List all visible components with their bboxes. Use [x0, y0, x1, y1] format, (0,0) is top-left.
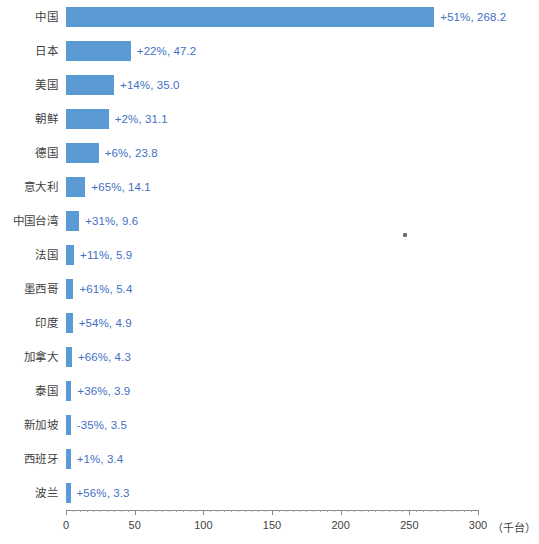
- x-axis-minor-tick: [183, 510, 184, 512]
- x-axis-minor-tick: [176, 510, 177, 512]
- bar-with-label: +31%, 9.6: [66, 211, 138, 231]
- x-axis-minor-tick: [217, 510, 218, 512]
- x-axis-minor-tick: [224, 510, 225, 512]
- x-axis-minor-tick: [258, 510, 259, 512]
- bar-with-label: +65%, 14.1: [66, 177, 151, 197]
- x-axis-minor-tick: [196, 510, 197, 512]
- bar-value-label: +61%, 5.4: [79, 283, 132, 295]
- x-axis-minor-tick: [265, 510, 266, 512]
- category-label: 美国: [0, 79, 58, 92]
- x-axis-minor-tick: [100, 510, 101, 512]
- bar: [66, 109, 109, 129]
- bar-value-label: +51%, 268.2: [440, 11, 506, 23]
- bar-row: 新加坡-35%, 3.5: [0, 408, 539, 442]
- bar-with-label: +51%, 268.2: [66, 7, 506, 27]
- x-axis-tick-label: 300: [469, 519, 487, 531]
- x-axis-minor-tick: [402, 510, 403, 512]
- bar: [66, 7, 434, 27]
- x-axis-minor-tick: [464, 510, 465, 512]
- x-axis-tick-label: 50: [129, 519, 141, 531]
- x-axis-minor-tick: [444, 510, 445, 512]
- bar: [66, 177, 85, 197]
- bar-row: 法国+11%, 5.9: [0, 238, 539, 272]
- bar-value-label: +2%, 31.1: [115, 113, 168, 125]
- x-axis-minor-tick: [299, 510, 300, 512]
- x-axis-tick: [66, 510, 67, 515]
- category-label: 加拿大: [0, 351, 58, 364]
- category-label: 法国: [0, 249, 58, 262]
- bar-value-label: +11%, 5.9: [80, 249, 132, 261]
- bar: [66, 41, 131, 61]
- x-axis-minor-tick: [190, 510, 191, 512]
- bar-with-label: +54%, 4.9: [66, 313, 132, 333]
- bar-with-label: +36%, 3.9: [66, 381, 130, 401]
- bar-with-label: +14%, 35.0: [66, 75, 180, 95]
- x-axis-minor-tick: [121, 510, 122, 512]
- bar: [66, 143, 99, 163]
- bar-with-label: +22%, 47.2: [66, 41, 196, 61]
- x-axis-tick: [272, 510, 273, 515]
- x-axis-minor-tick: [128, 510, 129, 512]
- x-axis-minor-tick: [430, 510, 431, 512]
- bar-value-label: +56%, 3.3: [77, 487, 130, 499]
- x-axis-tick: [135, 510, 136, 515]
- x-axis-minor-tick: [293, 510, 294, 512]
- bar-row: 墨西哥+61%, 5.4: [0, 272, 539, 306]
- bar-with-label: -35%, 3.5: [66, 415, 127, 435]
- bar-with-label: +2%, 31.1: [66, 109, 168, 129]
- bar-value-label: +6%, 23.8: [105, 147, 158, 159]
- x-axis-minor-tick: [313, 510, 314, 512]
- x-axis-minor-tick: [334, 510, 335, 512]
- bar-value-label: -35%, 3.5: [77, 419, 127, 431]
- bar-row: 加拿大+66%, 4.3: [0, 340, 539, 374]
- bar-value-label: +66%, 4.3: [78, 351, 131, 363]
- x-axis-tick: [203, 510, 204, 515]
- category-label: 西班牙: [0, 453, 58, 466]
- bar-row: 印度+54%, 4.9: [0, 306, 539, 340]
- bar-row: 日本+22%, 47.2: [0, 34, 539, 68]
- image-speck-artifact: [403, 233, 407, 237]
- x-axis-minor-tick: [416, 510, 417, 512]
- x-axis-minor-tick: [320, 510, 321, 512]
- bar-value-label: +65%, 14.1: [91, 181, 151, 193]
- x-axis-tick: [341, 510, 342, 515]
- x-axis-tick: [409, 510, 410, 515]
- x-axis-minor-tick: [375, 510, 376, 512]
- category-label: 朝鲜: [0, 113, 58, 126]
- bar: [66, 245, 74, 265]
- bar-value-label: +36%, 3.9: [77, 385, 130, 397]
- x-axis-minor-tick: [354, 510, 355, 512]
- category-label: 中国台湾: [0, 215, 58, 228]
- bar-row: 朝鲜+2%, 31.1: [0, 102, 539, 136]
- x-axis-minor-tick: [148, 510, 149, 512]
- bar: [66, 483, 71, 503]
- bar: [66, 415, 71, 435]
- x-axis-minor-tick: [73, 510, 74, 512]
- category-label: 印度: [0, 317, 58, 330]
- x-axis-minor-tick: [368, 510, 369, 512]
- x-axis-minor-tick: [238, 510, 239, 512]
- x-axis-minor-tick: [457, 510, 458, 512]
- bar-with-label: +61%, 5.4: [66, 279, 132, 299]
- bar-value-label: +22%, 47.2: [137, 45, 197, 57]
- bar: [66, 381, 71, 401]
- plot-area: 中国+51%, 268.2日本+22%, 47.2美国+14%, 35.0朝鲜+…: [0, 0, 539, 510]
- bar: [66, 347, 72, 367]
- bar-with-label: +56%, 3.3: [66, 483, 130, 503]
- category-label: 意大利: [0, 181, 58, 194]
- bar: [66, 75, 114, 95]
- bar-with-label: +1%, 3.4: [66, 449, 123, 469]
- bar-row: 泰国+36%, 3.9: [0, 374, 539, 408]
- bar-row: 西班牙+1%, 3.4: [0, 442, 539, 476]
- bar-with-label: +11%, 5.9: [66, 245, 132, 265]
- x-axis-minor-tick: [382, 510, 383, 512]
- category-label: 德国: [0, 147, 58, 160]
- x-axis-minor-tick: [389, 510, 390, 512]
- bar: [66, 279, 73, 299]
- x-axis-tick-label: 250: [400, 519, 418, 531]
- category-label: 波兰: [0, 487, 58, 500]
- x-axis-minor-tick: [471, 510, 472, 512]
- x-axis-minor-tick: [286, 510, 287, 512]
- x-axis-minor-tick: [87, 510, 88, 512]
- x-axis-unit-label: （千台）: [492, 519, 536, 535]
